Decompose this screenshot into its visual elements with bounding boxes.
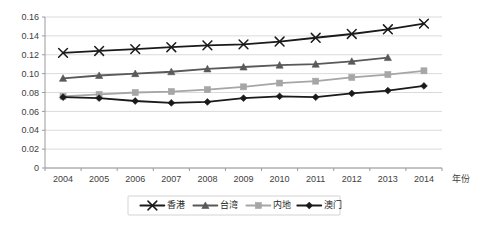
data-point-square: [349, 74, 355, 80]
legend-label: 澳门: [324, 199, 342, 210]
x-tick-label: 2004: [53, 174, 73, 184]
chart-canvas: 00.020.040.060.080.100.120.140.16 200420…: [0, 0, 483, 232]
square-marker: [132, 90, 138, 96]
square-marker: [204, 87, 210, 93]
data-point-square: [277, 80, 283, 86]
x-tick-label: 2009: [233, 174, 253, 184]
legend-label: 香港: [167, 199, 185, 210]
y-tick-label: 0.06: [21, 107, 39, 117]
data-point-square: [132, 90, 138, 96]
x-tick-label: 2013: [378, 174, 398, 184]
y-tick-label: 0.14: [21, 31, 39, 41]
x-tick-label: 2006: [125, 174, 145, 184]
x-tick-label: 2010: [270, 174, 290, 184]
x-tick-label: 2007: [161, 174, 181, 184]
data-point-square: [168, 89, 174, 95]
y-axis-tick-labels: 00.020.040.060.080.100.120.140.16: [21, 12, 39, 173]
y-tick-label: 0.10: [21, 69, 39, 79]
line-chart: 00.020.040.060.080.100.120.140.16 200420…: [0, 0, 483, 232]
legend-label: 台湾: [220, 199, 238, 210]
y-tick-label: 0.16: [21, 12, 39, 22]
y-tick-label: 0.02: [21, 144, 39, 154]
legend-label: 内地: [273, 199, 291, 210]
x-tick-label: 2008: [197, 174, 217, 184]
x-axis-title: 年份: [452, 173, 470, 184]
square-marker: [313, 78, 319, 84]
data-point-square: [421, 68, 427, 74]
y-tick-label: 0: [34, 163, 39, 173]
x-tick-label: 2014: [414, 174, 434, 184]
square-marker: [349, 74, 355, 80]
x-tick-label: 2005: [89, 174, 109, 184]
chart-legend: 香港台湾内地澳门: [128, 196, 342, 215]
y-tick-label: 0.12: [21, 50, 39, 60]
square-marker: [421, 68, 427, 74]
square-marker: [168, 89, 174, 95]
x-tick-label: 2011: [306, 174, 325, 184]
x-tick-label: 2012: [342, 174, 362, 184]
data-point-square: [385, 72, 391, 78]
square-marker: [241, 84, 247, 90]
data-point-square: [241, 84, 247, 90]
y-tick-label: 0.08: [21, 88, 39, 98]
square-marker: [277, 80, 283, 86]
square-marker: [255, 203, 261, 209]
data-point-square: [255, 203, 261, 209]
y-tick-label: 0.04: [21, 125, 39, 135]
data-point-square: [313, 78, 319, 84]
square-marker: [385, 72, 391, 78]
data-point-square: [204, 87, 210, 93]
